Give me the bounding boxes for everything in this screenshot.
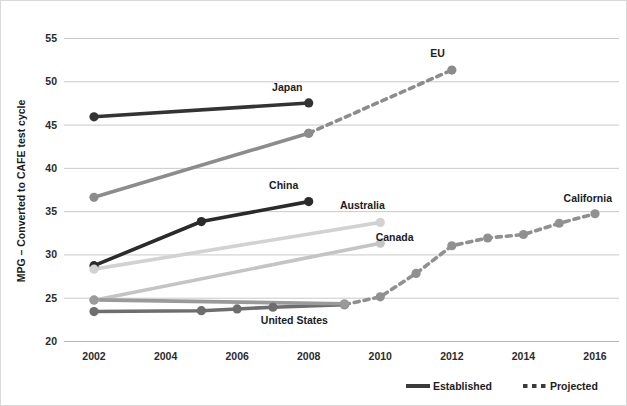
series-line-canada xyxy=(94,243,380,300)
y-tick-label-20: 20 xyxy=(45,335,57,347)
data-point-united-states-2002 xyxy=(89,307,98,316)
y-axis-ticks-group: 2025303540455055 xyxy=(45,32,57,347)
series-lines-group xyxy=(94,70,595,312)
data-point-california-2015 xyxy=(555,219,564,228)
series-label-california: California xyxy=(564,192,613,204)
gridlines-group xyxy=(64,39,619,342)
series-label-australia: Australia xyxy=(340,199,385,211)
data-point-canada-flat-2002 xyxy=(89,295,98,304)
series-line-canada-flat xyxy=(94,300,345,304)
series-line-australia xyxy=(94,222,380,269)
x-tick-label-2016: 2016 xyxy=(583,350,607,362)
x-tick-label-2004: 2004 xyxy=(154,350,178,362)
y-tick-label-25: 25 xyxy=(45,292,57,304)
chart-canvas: 2025303540455055 20022004200620082010201… xyxy=(1,1,626,405)
series-line-united-states xyxy=(94,305,345,312)
data-point-japan-2008 xyxy=(304,98,313,107)
x-tick-label-2006: 2006 xyxy=(225,350,249,362)
data-point-eu-2012 xyxy=(447,65,456,74)
x-tick-label-2010: 2010 xyxy=(369,350,393,362)
data-point-japan-2002 xyxy=(89,112,98,121)
y-tick-label-50: 50 xyxy=(45,75,57,87)
y-tick-label-55: 55 xyxy=(45,32,57,44)
series-points-group xyxy=(89,65,599,316)
data-point-california-2014 xyxy=(519,230,528,239)
data-point-california-2012 xyxy=(447,241,456,250)
data-point-california-2011 xyxy=(411,269,420,278)
series-label-japan: Japan xyxy=(272,81,302,93)
data-point-canada-flat-2009 xyxy=(340,299,349,308)
series-labels-group: JapanEUChinaAustraliaCanadaUnited States… xyxy=(261,47,612,326)
y-axis-title: MPG – Converted to CAFE test cycle xyxy=(15,100,27,283)
y-tick-label-40: 40 xyxy=(45,162,57,174)
y-tick-label-45: 45 xyxy=(45,119,57,131)
data-point-china-2005 xyxy=(197,217,206,226)
series-label-canada: Canada xyxy=(376,231,414,243)
x-tick-label-2012: 2012 xyxy=(440,350,464,362)
x-axis-ticks-group: 20022004200620082010201220142016 xyxy=(82,350,607,362)
data-point-eu-2008 xyxy=(304,129,313,138)
data-point-australia-2010 xyxy=(376,218,385,227)
series-line-japan xyxy=(94,103,309,117)
data-point-united-states-2006 xyxy=(233,304,242,313)
data-point-united-states-2007 xyxy=(268,303,277,312)
data-point-australia-2002 xyxy=(89,265,98,274)
x-tick-label-2008: 2008 xyxy=(297,350,321,362)
data-point-california-2010 xyxy=(376,292,385,301)
data-point-eu-2002 xyxy=(89,193,98,202)
x-tick-label-2014: 2014 xyxy=(512,350,536,362)
legend-group: EstablishedProjected xyxy=(406,380,598,392)
series-label-united-states: United States xyxy=(261,314,328,326)
legend-label-projected: Projected xyxy=(550,380,598,392)
mpg-cafe-line-chart: 2025303540455055 20022004200620082010201… xyxy=(1,1,626,405)
series-projected-line-eu xyxy=(309,70,452,133)
data-point-china-2008 xyxy=(304,197,313,206)
series-label-eu: EU xyxy=(430,47,445,59)
y-tick-label-30: 30 xyxy=(45,248,57,260)
series-label-china: China xyxy=(269,179,298,191)
x-tick-label-2002: 2002 xyxy=(82,350,106,362)
y-tick-label-35: 35 xyxy=(45,205,57,217)
data-point-united-states-2005 xyxy=(197,306,206,315)
data-point-california-2016 xyxy=(590,209,599,218)
data-point-california-2013 xyxy=(483,233,492,242)
legend-label-established: Established xyxy=(433,380,492,392)
